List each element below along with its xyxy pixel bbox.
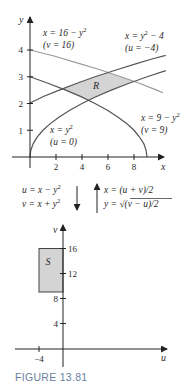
region-s [39, 249, 63, 293]
figure-canvas: 2 4 6 8 x 1 2 3 4 y R x = 16 − y2 (v = 1… [0, 0, 192, 386]
x-tick-label: 2 [54, 162, 59, 172]
v-tick-label: 12 [68, 269, 77, 279]
u-axis-label: u [161, 352, 166, 363]
curve-param-u0: (u = 0) [50, 137, 77, 148]
curve-label-u0: x = y2 [49, 123, 73, 135]
y-tick-label: 2 [19, 99, 24, 109]
region-r-label: R [92, 80, 99, 91]
forward-v-equation: v = x + y2 [22, 197, 60, 209]
curve-param-u-4: (u = −4) [125, 43, 158, 54]
transform-equations: u = x − y2 v = x + y2 x = (u + v)/2 y = … [22, 183, 172, 213]
uv-plot: 16 12 8 4 v −4 u S [15, 224, 167, 367]
y-tick-label: 3 [19, 72, 24, 82]
curve-param-v16: (v = 16) [43, 40, 74, 51]
v-tick-label: 16 [68, 244, 78, 254]
y-tick-label: 1 [19, 126, 24, 136]
y-axis-label: y [18, 14, 24, 25]
forward-u-equation: u = x − y2 [22, 183, 61, 195]
curve-label-v16: x = 16 − y2 [42, 26, 87, 38]
v-tick-label: 4 [54, 319, 59, 329]
y-tick-label: 4 [19, 45, 24, 55]
x-tick-label: 4 [80, 162, 85, 172]
u-tick-label: −4 [34, 354, 44, 364]
x-axis-label: x [160, 161, 166, 172]
xy-plot: 2 4 6 8 x 1 2 3 4 y R x = 16 − y2 (v = 1… [12, 14, 180, 172]
curve-label-u-4: x = y2 − 4 [124, 29, 164, 41]
v-tick-label: 8 [54, 294, 59, 304]
x-tick-label: 6 [106, 162, 111, 172]
curve-param-v9: (v = 9) [141, 125, 167, 136]
v-axis-label: v [53, 224, 58, 235]
inverse-x-equation: x = (u + v)/2 [103, 185, 153, 196]
region-s-label: S [46, 256, 51, 267]
x-tick-label: 8 [132, 162, 137, 172]
figure-caption: FIGURE 13.81 [15, 371, 87, 383]
inverse-y-equation: y = √(v − u)/2 [103, 199, 159, 210]
curve-label-v9: x = 9 − y2 [140, 111, 180, 123]
